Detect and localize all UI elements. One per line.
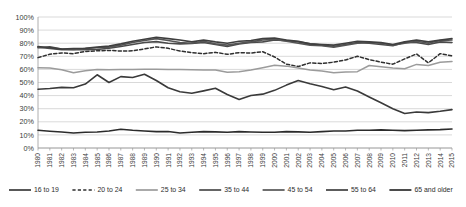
x-axis-label: 2003 — [306, 153, 313, 168]
x-axis-label: 1991 — [165, 153, 172, 168]
x-axis-label: 1995 — [212, 153, 219, 168]
plot-area-wrapper: 0%10%20%30%40%50%60%70%80%90%100% 198019… — [0, 0, 466, 207]
y-axis-label: 20% — [20, 117, 35, 126]
y-axis-label: 100% — [16, 13, 35, 22]
legend-label-55-to-64: 55 to 64 — [351, 186, 376, 193]
x-axis-label: 1989 — [141, 153, 148, 168]
x-axis-label: 2010 — [389, 153, 396, 168]
x-axis-label: 2014 — [437, 153, 444, 168]
x-axis-label: 1998 — [247, 153, 254, 168]
y-axis-label: 40% — [20, 91, 35, 100]
x-axis-label: 1988 — [129, 153, 136, 168]
x-axis-label: 1993 — [188, 153, 195, 168]
legend-label-65-and-older: 65 and older — [414, 186, 453, 193]
x-axis-label: 1981 — [46, 153, 53, 168]
y-axis-label: 70% — [20, 52, 35, 61]
x-axis-label: 1992 — [176, 153, 183, 168]
line-chart: 0%10%20%30%40%50%60%70%80%90%100% 198019… — [0, 0, 466, 207]
x-axis-label: 2009 — [377, 153, 384, 168]
x-axis-tick-labels: 1980198119821983198419851986198719881989… — [34, 153, 455, 168]
legend-label-20-to-24: 20 to 24 — [97, 186, 122, 193]
x-axis-label: 1980 — [34, 153, 41, 168]
x-axis-label: 1982 — [58, 153, 65, 168]
chart-legend: 16 to 1920 to 2425 to 3435 to 4445 to 54… — [9, 186, 453, 193]
x-axis-label: 1997 — [235, 153, 242, 168]
x-axis-label: 1984 — [82, 153, 89, 168]
y-axis-label: 60% — [20, 65, 35, 74]
series-line-16-to-19 — [38, 74, 452, 113]
y-axis-label: 50% — [20, 78, 35, 87]
legend-label-16-to-19: 16 to 19 — [34, 186, 59, 193]
x-axis-label: 1994 — [200, 153, 207, 168]
series-line-65-and-older — [38, 129, 452, 133]
x-axis-label: 2002 — [295, 153, 302, 168]
chart-container: 0%10%20%30%40%50%60%70%80%90%100% 198019… — [0, 0, 466, 207]
x-axis-label: 2013 — [425, 153, 432, 168]
x-axis-label: 1996 — [224, 153, 231, 168]
data-series — [38, 37, 452, 133]
y-axis-label: 80% — [20, 39, 35, 48]
y-axis-label: 0% — [24, 144, 35, 153]
x-axis-label: 2007 — [354, 153, 361, 168]
legend-label-45-to-54: 45 to 54 — [288, 186, 313, 193]
x-axis-label: 2008 — [366, 153, 373, 168]
y-axis-label: 90% — [20, 26, 35, 35]
y-axis-tick-labels: 0%10%20%30%40%50%60%70%80%90%100% — [16, 13, 35, 153]
y-axis-label: 30% — [20, 104, 35, 113]
x-axis-label: 2004 — [318, 153, 325, 168]
x-axis-label: 1985 — [94, 153, 101, 168]
y-axis-label: 10% — [20, 131, 35, 140]
x-axis-label: 2011 — [401, 153, 408, 168]
x-axis-label: 1987 — [117, 153, 124, 168]
x-axis-label: 2006 — [342, 153, 349, 168]
x-axis-label: 1990 — [153, 153, 160, 168]
x-axis-label: 2012 — [413, 153, 420, 168]
x-axis-label: 2015 — [448, 153, 455, 168]
x-axis-label: 1986 — [105, 153, 112, 168]
x-axis-label: 1983 — [70, 153, 77, 168]
legend-label-25-to-34: 25 to 34 — [161, 186, 186, 193]
x-axis-label: 2001 — [283, 153, 290, 168]
legend-label-35-to-44: 35 to 44 — [224, 186, 249, 193]
gridlines — [38, 17, 452, 148]
x-axis-label: 2000 — [271, 153, 278, 168]
x-axis-label: 1999 — [259, 153, 266, 168]
x-axis-label: 2005 — [330, 153, 337, 168]
